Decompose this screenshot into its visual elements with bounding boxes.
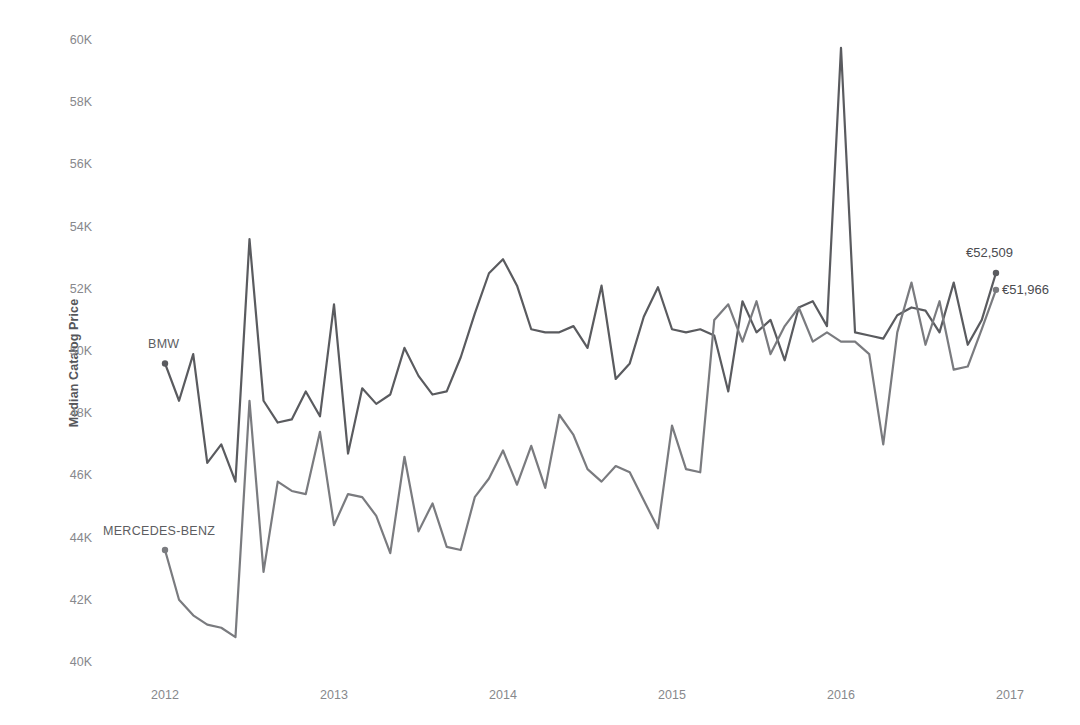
plot-area — [0, 0, 1080, 725]
end-marker-bmw — [993, 270, 999, 276]
line-series-bmw — [165, 48, 996, 482]
line-chart: Median Catalog Price 40K42K44K46K48K50K5… — [0, 0, 1080, 725]
series-label-bmw: BMW — [148, 337, 179, 351]
series-label-mercedes: MERCEDES-BENZ — [103, 524, 215, 538]
start-marker-bmw — [162, 360, 168, 366]
end-marker-mercedes-benz — [993, 287, 999, 293]
end-value-label-mercedes: €51,966 — [1002, 282, 1049, 297]
start-marker-mercedes-benz — [162, 547, 168, 553]
end-value-label-bmw: €52,509 — [966, 245, 1013, 260]
